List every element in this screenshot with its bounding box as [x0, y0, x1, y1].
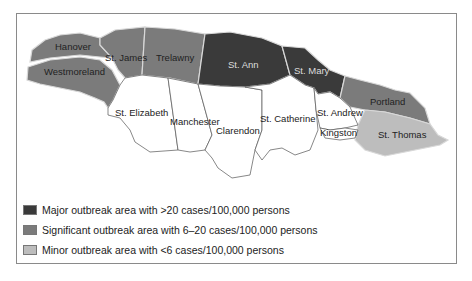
legend-item-minor: Minor outbreak area with <6 cases/100,00… — [23, 240, 318, 260]
legend-label: Significant outbreak area with 6–20 case… — [42, 224, 318, 236]
label-st-elizabeth: St. Elizabeth — [115, 108, 168, 118]
label-st-ann: St. Ann — [228, 60, 259, 70]
legend-item-significant: Significant outbreak area with 6–20 case… — [23, 220, 318, 240]
label-manchester: Manchester — [170, 117, 220, 127]
label-trelawny: Trelawny — [156, 53, 194, 63]
label-st-andrew: St. Andrew — [317, 108, 363, 118]
label-westmoreland: Westmoreland — [44, 67, 105, 77]
label-st-mary: St. Mary — [294, 66, 329, 76]
parish-westmoreland[interactable] — [27, 57, 120, 108]
label-st-james: St. James — [105, 53, 147, 63]
legend-label: Major outbreak area with >20 cases/100,0… — [42, 204, 290, 216]
swatch-significant — [23, 225, 37, 235]
legend-item-major: Major outbreak area with >20 cases/100,0… — [23, 200, 318, 220]
swatch-major — [23, 205, 37, 215]
swatch-minor — [23, 245, 37, 255]
label-clarendon: Clarendon — [216, 126, 260, 136]
label-portland: Portland — [370, 97, 405, 107]
label-kingston: Kingston — [320, 128, 357, 138]
label-hanover: Hanover — [55, 42, 91, 52]
legend-label: Minor outbreak area with <6 cases/100,00… — [42, 244, 284, 256]
map-legend: Major outbreak area with >20 cases/100,0… — [23, 200, 318, 260]
label-st-thomas: St. Thomas — [378, 130, 426, 140]
label-st-catherine: St. Catherine — [260, 114, 315, 124]
